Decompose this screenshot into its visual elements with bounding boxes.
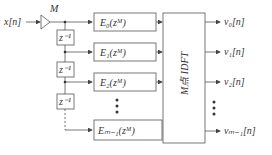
output-v2: v₂[n]	[224, 76, 245, 87]
decimation-label: M	[49, 3, 59, 14]
output-v0: v₀[n]	[224, 16, 245, 27]
filter-e0: E₀(zᴹ)	[99, 17, 126, 29]
delay-3: z⁻¹	[58, 96, 71, 107]
filter-em1: Eₘ₋₁(zᴹ)	[97, 125, 135, 137]
idft-label: M点 IDFT	[179, 51, 190, 96]
polyphase-diagram: x[n] M z⁻¹ z⁻¹ z⁻¹ E₀(zᴹ) E₁(zᴹ) E₂(zᴹ) …	[0, 0, 272, 155]
delay-1: z⁻¹	[58, 32, 71, 43]
delay-2: z⁻¹	[58, 64, 71, 75]
output-v1: v₁[n]	[224, 46, 245, 57]
filter-e2: E₂(zᴹ)	[99, 77, 126, 89]
input-label: x[n]	[3, 16, 21, 27]
filter-e1: E₁(zᴹ)	[99, 47, 126, 59]
output-vm1: vₘ₋₁[n]	[224, 125, 256, 136]
